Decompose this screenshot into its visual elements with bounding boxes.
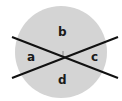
label-a: a [27,51,35,63]
label-d: d [58,74,67,86]
label-b: b [58,26,67,38]
label-c: c [91,51,98,63]
